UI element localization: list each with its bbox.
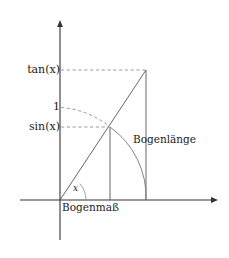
- radian-measure-label: Bogenmaß: [62, 202, 119, 213]
- unit-axis-label: 1: [53, 101, 60, 112]
- y-axis-arrowhead: [57, 20, 63, 27]
- x-axis-arrowhead: [211, 197, 218, 203]
- trigonometry-diagram: tan(x) 1 sin(x) Bogenlänge Bogenmaß x: [0, 0, 229, 258]
- sine-axis-label: sin(x): [29, 121, 60, 132]
- radian-measure-label-text: Bogenmaß: [62, 201, 119, 213]
- angle-label: x: [73, 184, 78, 193]
- arc-length-label-text: Bogenlänge: [133, 133, 196, 145]
- arc-length-label: Bogenlänge: [133, 134, 196, 145]
- angle-label-text: x: [73, 183, 78, 193]
- unit-radius-arc-guide: [61, 108, 109, 127]
- dashed-guides: [61, 70, 145, 127]
- unit-axis-label-text: 1: [53, 100, 60, 113]
- tangent-axis-label-text: tan(x): [27, 63, 60, 76]
- sine-axis-label-text: sin(x): [29, 120, 60, 133]
- angle-arc: [80, 184, 86, 200]
- tangent-axis-label: tan(x): [27, 64, 60, 75]
